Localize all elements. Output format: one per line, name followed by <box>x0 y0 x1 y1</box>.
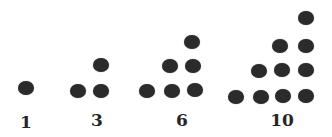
dot <box>272 39 288 53</box>
dot <box>162 59 178 73</box>
dot <box>164 84 180 98</box>
dot <box>139 84 155 98</box>
count-label: 10 <box>270 112 294 129</box>
dot <box>298 63 314 77</box>
dot <box>18 81 34 95</box>
dot <box>187 83 203 97</box>
dot <box>184 35 200 49</box>
dot <box>274 63 290 77</box>
count-label: 6 <box>176 112 188 129</box>
dot <box>93 84 109 98</box>
dot <box>275 89 291 103</box>
triangular-numbers-diagram: 1 3 6 10 <box>0 0 332 137</box>
count-label: 3 <box>91 112 103 129</box>
dot <box>253 90 269 104</box>
dot <box>70 84 86 98</box>
dot <box>228 90 244 104</box>
count-label: 1 <box>20 114 32 131</box>
dot <box>298 89 314 103</box>
dot <box>93 58 109 72</box>
dot <box>185 59 201 73</box>
dot <box>298 39 314 53</box>
dot <box>251 64 267 78</box>
dot <box>298 11 314 25</box>
